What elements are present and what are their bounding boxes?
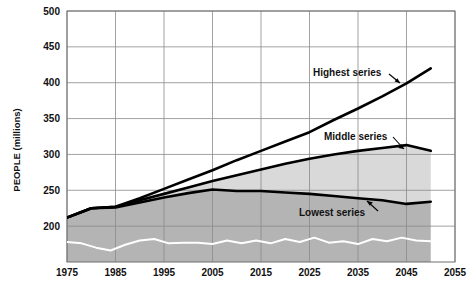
x-tick-label: 2045 xyxy=(395,267,418,278)
x-tick-label: 2025 xyxy=(298,267,321,278)
y-tick-label: 450 xyxy=(43,41,60,52)
x-tick-label: 2055 xyxy=(444,267,467,278)
x-tick-label: 2005 xyxy=(201,267,224,278)
y-tick-label: 300 xyxy=(43,149,60,160)
y-tick-label: 250 xyxy=(43,185,60,196)
x-tick-label: 1975 xyxy=(56,267,79,278)
y-tick-label: 200 xyxy=(43,221,60,232)
x-tick-label: 1985 xyxy=(104,267,127,278)
x-tick-label: 2015 xyxy=(250,267,273,278)
x-tick-label: 2035 xyxy=(347,267,370,278)
chart-container: 200250300350400450500 197519851995200520… xyxy=(0,0,473,294)
y-axis-title: PEOPLE (millions) xyxy=(11,108,22,191)
highest-series-label: Highest series xyxy=(313,67,382,78)
lowest-series-label: Lowest series xyxy=(299,207,366,218)
x-tick-label: 1995 xyxy=(153,267,176,278)
y-tick-label: 500 xyxy=(43,6,60,17)
y-tick-label: 350 xyxy=(43,113,60,124)
y-tick-label: 400 xyxy=(43,77,60,88)
middle-series-label: Middle series xyxy=(324,131,388,142)
x-axis-tick-labels: 197519851995200520152025203520452055 xyxy=(56,267,467,278)
population-projection-chart: 200250300350400450500 197519851995200520… xyxy=(0,0,473,294)
